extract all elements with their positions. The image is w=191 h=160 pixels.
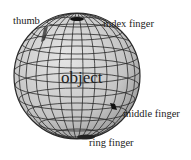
ring-finger-label: ring finger — [89, 138, 134, 149]
index-finger-label: index finger — [103, 19, 154, 30]
thumb-label: thumb — [13, 16, 40, 27]
middle-finger-label: middle finger — [123, 109, 180, 120]
object-label: object — [61, 69, 103, 86]
index-contact-marker — [70, 17, 84, 21]
grasp-diagram: thumb index finger object middle finger … — [0, 0, 191, 160]
